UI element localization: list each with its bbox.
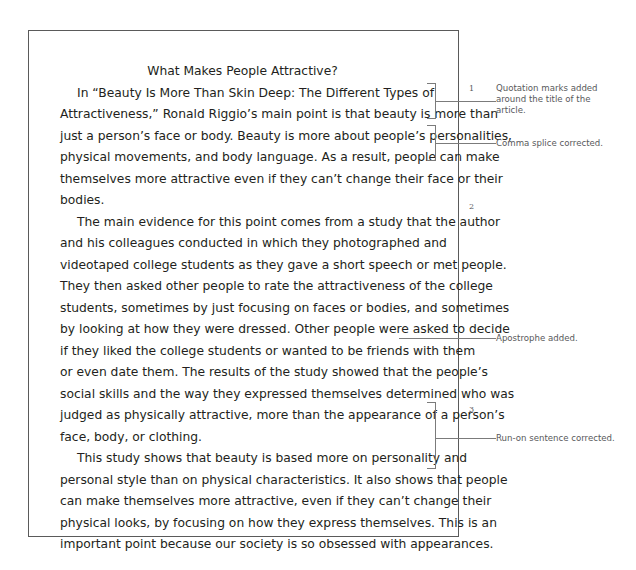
paragraph-1: In “Beauty Is More Than Skin Deep: The D… xyxy=(60,83,425,212)
annotation-comma-splice: Comma splice corrected. xyxy=(496,138,621,149)
paragraph-3-line-3: can make themselves more attractive, eve… xyxy=(60,491,425,513)
paragraph-1-line-2: Attractiveness,” Ronald Riggio’s main po… xyxy=(60,104,425,126)
paragraph-1-line-6: bodies. xyxy=(60,190,425,212)
essay-body: What Makes People Attractive? In “Beauty… xyxy=(60,61,425,556)
annotation-run-on: Run-on sentence corrected. xyxy=(496,433,621,444)
annotation-quotation-marks: Quotation marks added around the title o… xyxy=(496,83,621,117)
bracket-comma-splice xyxy=(427,125,436,161)
leader-line-run-on xyxy=(436,438,496,439)
paragraph-marker-1: 1 xyxy=(469,84,474,93)
paragraph-marker-3: 3 xyxy=(469,405,474,414)
paragraph-2-line-10: judged as physically attractive, more th… xyxy=(60,405,425,427)
paragraph-1-line-5: themselves more attractive even if they … xyxy=(60,169,425,191)
paragraph-1-line-3: just a person’s face or body. Beauty is … xyxy=(60,126,425,148)
paragraph-2-line-1: The main evidence for this point comes f… xyxy=(60,212,425,234)
paragraph-2-line-5: students, sometimes by just focusing on … xyxy=(60,298,425,320)
paragraph-marker-2: 2 xyxy=(469,202,474,211)
paragraph-3-line-2: personal style than on physical characte… xyxy=(60,470,425,492)
paragraph-1-line-4: physical movements, and body language. A… xyxy=(60,147,425,169)
paragraph-2-line-9: social skills and the way they expressed… xyxy=(60,384,425,406)
leader-line-quotation-marks xyxy=(436,101,496,102)
paragraph-2-line-3: videotaped college students as they gave… xyxy=(60,255,425,277)
bracket-quotation-marks xyxy=(427,83,436,119)
paragraph-3: This study shows that beauty is based mo… xyxy=(60,448,425,556)
leader-line-comma-splice xyxy=(436,143,496,144)
bracket-run-on xyxy=(427,402,436,469)
leader-line-apostrophe xyxy=(399,338,496,339)
annotation-apostrophe: Apostrophe added. xyxy=(496,333,621,344)
paragraph-2: The main evidence for this point comes f… xyxy=(60,212,425,449)
document-page: What Makes People Attractive? In “Beauty… xyxy=(28,30,459,537)
paragraph-2-line-4: They then asked other people to rate the… xyxy=(60,276,425,298)
paragraph-2-line-7: if they liked the college students or wa… xyxy=(60,341,425,363)
paragraph-2-line-2: and his colleagues conducted in which th… xyxy=(60,233,425,255)
paragraph-1-line-1: In “Beauty Is More Than Skin Deep: The D… xyxy=(60,83,425,105)
paragraph-3-line-5: important point because our society is s… xyxy=(60,534,425,556)
paragraph-3-line-4: physical looks, by focusing on how they … xyxy=(60,513,425,535)
paragraph-2-line-8: or even date them. The results of the st… xyxy=(60,362,425,384)
paragraph-3-line-1: This study shows that beauty is based mo… xyxy=(60,448,425,470)
paragraph-2-line-6: by looking at how they were dressed. Oth… xyxy=(60,319,425,341)
page-title: What Makes People Attractive? xyxy=(60,61,425,83)
paragraph-2-line-11: face, body, or clothing. xyxy=(60,427,425,449)
